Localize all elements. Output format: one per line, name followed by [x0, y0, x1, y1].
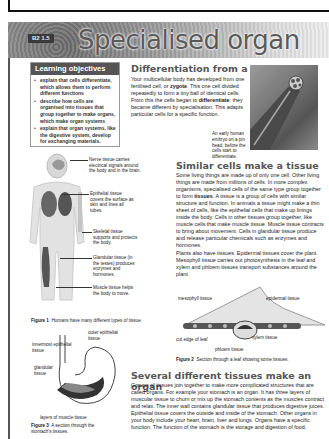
figure-label: Figure 3 — [31, 423, 49, 428]
caption-text: Section through a leaf showing some tiss… — [196, 357, 288, 362]
leader-line — [60, 258, 92, 259]
leader-line — [62, 194, 89, 195]
caption-text: Humans have many different types of tiss… — [51, 318, 142, 323]
label-muscle-layers: layers of muscle tissue — [40, 415, 100, 421]
embryo-photo-caption: An early human embryo on a pin head, bef… — [212, 131, 250, 160]
text-span: . A tissue is a group of cells with simi… — [176, 193, 324, 248]
page-top-frame — [8, 0, 329, 12]
figure-2-leaf-section — [175, 285, 325, 345]
leaf-section-diagram-icon — [175, 285, 325, 345]
section-differentiation-text: Your multicellular body has developed fr… — [131, 76, 249, 118]
learning-objectives-heading: Learning objectives — [31, 63, 119, 75]
figure-2-caption: Figure 2 Section through a leaf showing … — [176, 357, 289, 362]
label-innermost-epithelial: innermost epithelial tissue — [32, 342, 72, 353]
label-cut-edge: cut edge of leaf — [176, 337, 207, 343]
figure-3-caption: Figure 3 A section through the stomach's… — [31, 423, 111, 435]
leader-line — [56, 287, 92, 288]
figure-label: Figure 2 — [176, 357, 194, 362]
figure-label: Figure 1 — [31, 318, 49, 323]
lesson-badge: B2 1.5 — [28, 34, 54, 43]
objective-item: explain that cells differentiate, which … — [34, 77, 116, 97]
label-phloem: phloem tissue — [215, 347, 243, 353]
objective-item: describe how cells are organised into ti… — [34, 98, 116, 124]
objective-item: explain that organ systems, like the dig… — [34, 125, 116, 145]
margin-rule — [8, 58, 10, 439]
label-skeletal-tissue: Skeletal tissue supports and protects th… — [93, 229, 138, 246]
section-tissue-paragraph-1: Some living things are made up of only o… — [176, 172, 326, 249]
label-glandular-stomach: glandular tissue — [34, 365, 64, 376]
section-heading-tissue: Similar cells make a tissue — [176, 160, 319, 171]
learning-objectives-list: explain that cells differentiate, which … — [31, 75, 119, 148]
label-outer-epithelial: outer epithelial tissue — [88, 330, 128, 341]
figure-1-human-body — [22, 152, 92, 302]
learning-objectives-box: Learning objectives explain that cells d… — [30, 62, 120, 147]
leader-line — [70, 160, 88, 161]
section-tissue-paragraph-2: Plants also have tissues. Epidermal tiss… — [176, 250, 326, 278]
label-glandular-tissue: Glandular tissue (in the testes) produce… — [93, 255, 135, 277]
term-tissues: tissues — [194, 193, 213, 199]
embryo-photo — [250, 65, 318, 150]
label-xylem: xylem tissue — [252, 335, 277, 341]
label-muscle-tissue: Muscle tissue helps the body to move. — [93, 285, 138, 296]
label-epithelial-tissue: Epithelial tissue covers the surface as … — [90, 191, 135, 213]
section-organ-text: Groups of tissues join together to make … — [131, 382, 327, 431]
figure-1-caption: Figure 1 Humans have many different type… — [31, 318, 142, 323]
leader-line — [82, 232, 92, 233]
term-differentiate: differentiate — [199, 97, 230, 103]
embryo-on-pin-icon — [250, 65, 318, 150]
label-mesophyll: mesophyll tissue — [178, 296, 212, 302]
label-epidermal: epidermal tissue — [266, 296, 299, 302]
term-zygote: zygote — [170, 83, 187, 89]
label-nerve-tissue: Nerve tissue carries electrical signals … — [89, 157, 141, 174]
title-banner: B2 1.5 Specialised organ systems — [8, 22, 329, 58]
human-body-diagram-icon — [22, 152, 92, 302]
page-title: Specialised organ systems — [78, 25, 329, 58]
